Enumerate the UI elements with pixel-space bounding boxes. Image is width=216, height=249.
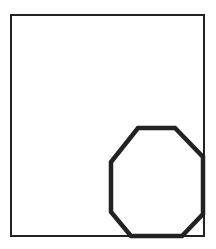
- diagram-canvas: [0, 0, 216, 249]
- octagon-shape: [111, 128, 203, 236]
- outer-rectangle: [11, 15, 204, 236]
